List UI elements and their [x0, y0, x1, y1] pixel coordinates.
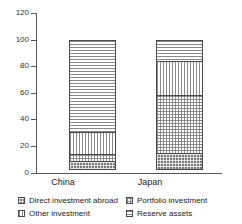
legend-label-reserve-assets: Reserve assets	[137, 209, 192, 218]
x-axis-label-japan: Japan	[110, 177, 190, 187]
legend-item-other-investment: Other investment	[18, 207, 126, 220]
legend-label-other-investment: Other investment	[29, 209, 90, 218]
bar-japan	[156, 40, 203, 173]
y-axis-label-100: 100	[3, 36, 29, 44]
legend-label-portfolio-investment: Portfolio investment	[137, 196, 207, 205]
bar-china-segment-reserve-assets	[69, 40, 116, 133]
y-axis-label-20: 20	[3, 142, 29, 150]
bar-china	[69, 40, 116, 173]
legend-swatch-reserve-assets	[126, 210, 133, 217]
y-axis-label-40: 40	[3, 115, 29, 123]
plot-area	[36, 13, 222, 173]
legend-item-portfolio-investment: Portfolio investment	[126, 194, 230, 207]
y-axis-label-0: 0	[3, 169, 29, 177]
legend-item-direct-investment-abroad: Direct investment abroad	[18, 194, 126, 207]
legend-swatch-other-investment	[18, 210, 25, 217]
legend-swatch-direct-investment-abroad	[18, 197, 25, 204]
bar-japan-segment-reserve-assets	[156, 40, 203, 63]
y-axis-label-60: 60	[3, 89, 29, 97]
bar-japan-segment-portfolio-investment	[156, 95, 203, 154]
legend-item-reserve-assets: Reserve assets	[126, 207, 230, 220]
bar-china-segment-other-investment	[69, 132, 116, 155]
y-axis-label-120: 120	[3, 9, 29, 17]
x-axis-label-china: China	[23, 177, 103, 187]
legend-label-direct-investment-abroad: Direct investment abroad	[29, 196, 118, 205]
chart-legend: Direct investment abroad Portfolio inves…	[18, 194, 230, 220]
stacked-bar-chart: 120 100 80 60 40 20 0 China Japan	[0, 0, 242, 224]
legend-swatch-portfolio-investment	[126, 197, 133, 204]
bar-japan-segment-other-investment	[156, 61, 203, 96]
bar-china-segment-direct-investment-abroad	[69, 161, 116, 170]
x-axis-line	[36, 173, 222, 174]
bar-japan-segment-direct-investment-abroad	[156, 153, 203, 170]
y-axis-label-80: 80	[3, 62, 29, 70]
